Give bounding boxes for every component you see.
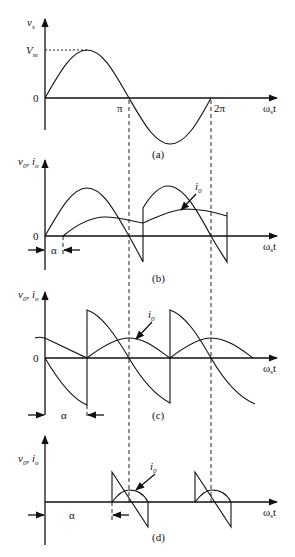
supply-voltage-wave [45, 50, 211, 144]
caption-b: (b) [152, 272, 165, 285]
x-axis-label: ωst [263, 240, 276, 254]
y-axis-label: vs [27, 16, 35, 31]
origin-label: 0 [33, 230, 39, 242]
current-label: i0 [148, 308, 155, 323]
panel-a: vs Vm 0 π 2π ωst (a) [26, 16, 277, 161]
origin-label: 0 [33, 352, 39, 364]
current-pointer-arrow [136, 322, 152, 339]
x-axis-label: ωst [263, 102, 276, 116]
current-label: i0 [195, 180, 202, 195]
current-pointer-arrow [136, 474, 155, 490]
panel-c: v0, io 0 α i0 ωst (c) [18, 288, 277, 422]
panel-b: v0, io 0 α i0 ωst (b) [18, 155, 277, 285]
caption-a: (a) [152, 148, 165, 161]
y-axis-label: v0, io [18, 155, 39, 170]
x-axis-label: ωst [263, 362, 276, 376]
caption-d: (d) [152, 531, 165, 544]
alpha-label: α [69, 509, 75, 521]
output-current-wave [35, 337, 253, 358]
caption-c: (c) [152, 409, 165, 422]
panel-d: v0, io α i0 ωst (d) [18, 436, 277, 545]
output-voltage-pulse-2 [195, 472, 231, 527]
rectifier-waveform-figure: vs Vm 0 π 2π ωst (a) v0, io 0 α i0 ωst (… [0, 0, 295, 557]
current-label: i0 [150, 460, 157, 475]
output-current-wave [63, 209, 227, 236]
current-pointer-arrow [181, 194, 196, 210]
alpha-label: α [51, 244, 57, 256]
y-axis-label: v0, io [18, 452, 39, 467]
origin-label: 0 [33, 92, 39, 104]
output-voltage-pulse-1 [112, 472, 148, 527]
vm-label: Vm [26, 44, 38, 59]
alpha-label: α [61, 409, 67, 421]
pi-tick-label: π [117, 102, 123, 114]
y-axis-label: v0, io [18, 288, 39, 303]
two-pi-tick-label: 2π [214, 102, 226, 114]
x-axis-label: ωst [263, 506, 276, 520]
